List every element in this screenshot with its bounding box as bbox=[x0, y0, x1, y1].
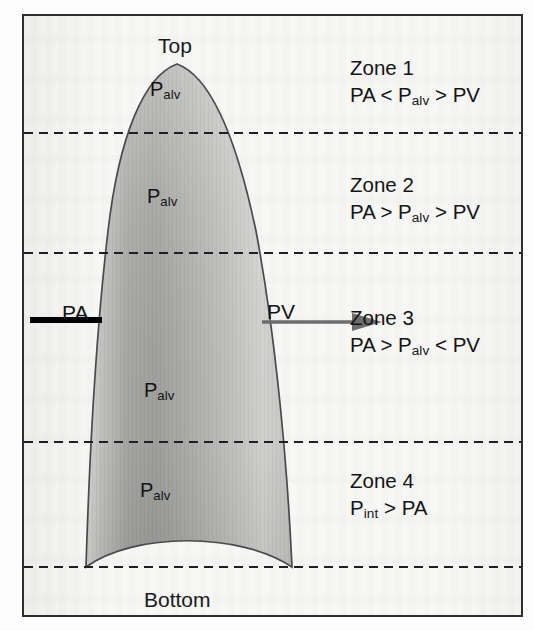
label-palv-zone2: Palv bbox=[147, 185, 178, 209]
zone-2-title: Zone 2 bbox=[350, 171, 480, 198]
label-pv: PV bbox=[267, 300, 295, 324]
zone-block-4: Zone 4 Pint > PA bbox=[350, 467, 427, 523]
label-bottom: Bottom bbox=[144, 588, 211, 613]
label-palv-zone1: Palv bbox=[150, 78, 181, 102]
zone-4-title: Zone 4 bbox=[350, 467, 427, 494]
zone-block-1: Zone 1 PA < Palv > PV bbox=[350, 54, 480, 110]
zone-block-3: Zone 3 PA > Palv < PV bbox=[350, 304, 480, 360]
zone-1-title: Zone 1 bbox=[350, 54, 480, 81]
label-pa: PA bbox=[62, 301, 88, 325]
zone-4-relation: Pint > PA bbox=[350, 494, 427, 523]
zone-3-relation: PA > Palv < PV bbox=[350, 331, 480, 360]
zone-1-relation: PA < Palv > PV bbox=[350, 81, 480, 110]
label-palv-zone4: Palv bbox=[140, 479, 171, 503]
label-palv-zone3: Palv bbox=[144, 379, 175, 403]
zone-3-title: Zone 3 bbox=[350, 304, 480, 331]
figure-page: Top Bottom PA PV Palv Palv Palv Palv Zon… bbox=[0, 0, 534, 631]
figure-frame: Top Bottom PA PV Palv Palv Palv Palv Zon… bbox=[22, 14, 523, 617]
zone-block-2: Zone 2 PA > Palv > PV bbox=[350, 171, 480, 227]
label-top: Top bbox=[158, 34, 192, 59]
zone-2-relation: PA > Palv > PV bbox=[350, 198, 480, 227]
